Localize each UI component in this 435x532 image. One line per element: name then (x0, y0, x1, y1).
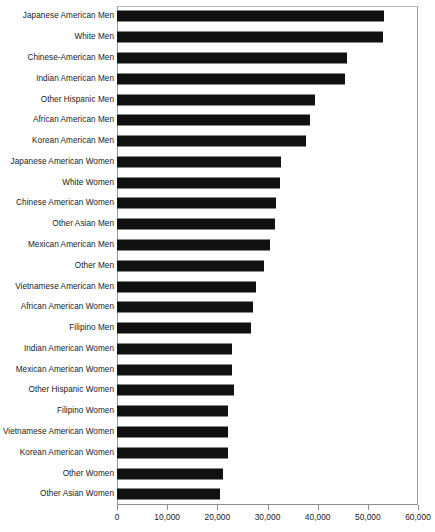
bar-chart: Japanese American MenWhite MenChinese-Am… (0, 0, 435, 532)
bar-track (117, 463, 418, 484)
bar-track (117, 422, 418, 443)
x-axis-tick-label: 60,000 (405, 512, 431, 522)
bar-row: Indian American Men (0, 68, 435, 89)
bar (117, 136, 306, 147)
bar (117, 11, 384, 22)
bar (117, 468, 223, 479)
bar-track (117, 297, 418, 318)
category-label: Filipino Women (2, 406, 114, 416)
x-axis-tick (117, 505, 118, 510)
category-label: African American Women (2, 303, 114, 313)
category-label: White Women (2, 178, 114, 188)
bar-row: Other Hispanic Men (0, 89, 435, 110)
x-axis-tick-label: 30,000 (255, 512, 281, 522)
category-label: Mexican American Women (2, 365, 114, 375)
bar-row: Chinese American Women (0, 193, 435, 214)
category-label: Japanese American Women (2, 157, 114, 167)
category-label: Chinese American Women (2, 199, 114, 209)
x-axis-tick (268, 505, 269, 510)
bar-row: Japanese American Women (0, 151, 435, 172)
bar-row: Other Women (0, 463, 435, 484)
bar-track (117, 48, 418, 69)
x-axis-tick (418, 505, 419, 510)
x-axis-tick-label: 40,000 (305, 512, 331, 522)
bar-track (117, 6, 418, 27)
x-axis-tick (167, 505, 168, 510)
x-axis-tick-label: 0 (115, 512, 120, 522)
bar-track (117, 318, 418, 339)
bar-track (117, 89, 418, 110)
bar (117, 198, 276, 209)
category-label: Korean American Women (2, 448, 114, 458)
bar (117, 260, 264, 271)
bar-row: Filipino Men (0, 318, 435, 339)
bar-row: Vietnamese American Women (0, 422, 435, 443)
bar-row: Other Hispanic Women (0, 380, 435, 401)
bar-track (117, 214, 418, 235)
bar-track (117, 131, 418, 152)
bar-row: Other Men (0, 255, 435, 276)
bar (117, 52, 347, 63)
category-label: Indian American Men (2, 74, 114, 84)
bar (117, 447, 228, 458)
bar-row: Vietnamese American Men (0, 276, 435, 297)
category-label: Other Hispanic Men (2, 95, 114, 105)
bar (117, 323, 251, 334)
bar (117, 32, 383, 43)
bar-track (117, 339, 418, 360)
x-axis-tick-label: 20,000 (205, 512, 231, 522)
bar-track (117, 193, 418, 214)
bar-row: Korean American Women (0, 442, 435, 463)
bar-row: Korean American Men (0, 131, 435, 152)
category-label: Filipino Men (2, 323, 114, 333)
x-axis: 010,00020,00030,00040,00050,00060,000 (117, 505, 418, 532)
category-label: Mexican American Men (2, 240, 114, 250)
category-label: Japanese American Men (2, 12, 114, 22)
bar-row: Mexican American Men (0, 235, 435, 256)
x-axis-tick-label: 10,000 (154, 512, 180, 522)
x-axis-tick (368, 505, 369, 510)
bar-row: White Men (0, 27, 435, 48)
bar-track (117, 235, 418, 256)
category-label: Other Women (2, 469, 114, 479)
bar (117, 239, 270, 250)
category-label: Vietnamese American Women (2, 427, 114, 437)
bar-track (117, 380, 418, 401)
bar (117, 177, 280, 188)
bar-track (117, 276, 418, 297)
bar (117, 489, 220, 500)
bar-row: Other Asian Women (0, 484, 435, 505)
bar-row: Japanese American Men (0, 6, 435, 27)
bar-row: African American Men (0, 110, 435, 131)
bar (117, 115, 310, 126)
x-axis-tick-label: 50,000 (355, 512, 381, 522)
bar (117, 281, 256, 292)
category-label: African American Men (2, 116, 114, 126)
bar (117, 427, 228, 438)
bar (117, 156, 281, 167)
bar-track (117, 151, 418, 172)
bar (117, 73, 345, 84)
bar (117, 343, 232, 354)
x-axis-tick (217, 505, 218, 510)
bar-track (117, 110, 418, 131)
bar (117, 94, 315, 105)
bar (117, 364, 232, 375)
category-label: Chinese-American Men (2, 53, 114, 63)
bar-row: Chinese-American Men (0, 48, 435, 69)
bar-row: Other Asian Men (0, 214, 435, 235)
category-label: Other Men (2, 261, 114, 271)
x-axis-tick (318, 505, 319, 510)
bar-row: Indian American Women (0, 339, 435, 360)
bar (117, 406, 228, 417)
category-label: Indian American Women (2, 344, 114, 354)
bar (117, 219, 275, 230)
category-label: Korean American Men (2, 136, 114, 146)
category-label: Other Asian Men (2, 219, 114, 229)
bar-track (117, 359, 418, 380)
bar-track (117, 484, 418, 505)
bar-track (117, 401, 418, 422)
bar-track (117, 255, 418, 276)
bar-row: African American Women (0, 297, 435, 318)
category-label: Vietnamese American Men (2, 282, 114, 292)
